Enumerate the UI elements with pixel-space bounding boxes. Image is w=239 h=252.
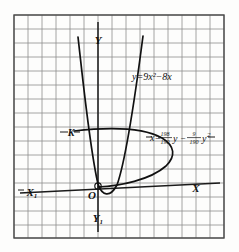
origin-label: O — [88, 189, 96, 201]
equation2-mid-variable: y — [172, 133, 178, 144]
equation-parabola-vertical: y=9x²−8x — [131, 71, 172, 82]
equation2-frac1-denominator: 190 — [161, 139, 170, 145]
figure-canvas: Y Y₁ X X₁ O K y=9x²−8x x= 198 190 y − 9 … — [0, 0, 239, 252]
equation2-frac1-numerator: 198 — [161, 131, 170, 137]
equation-parabola-horizontal: x= 198 190 y − 9 190 y 2 — [149, 131, 211, 145]
math-figure: Y Y₁ X X₁ O K y=9x²−8x x= 198 190 y − 9 … — [0, 0, 239, 252]
y1-axis-label: Y₁ — [93, 212, 104, 224]
figure-background — [0, 0, 239, 252]
x-axis-label: X — [191, 182, 200, 194]
x1-axis-label: X₁ — [25, 186, 37, 198]
equation2-frac2-numerator: 9 — [193, 131, 196, 137]
equation2-tail-exponent: 2 — [207, 131, 211, 139]
point-k-label: K — [67, 127, 76, 138]
equation2-frac2-denominator: 190 — [190, 139, 199, 145]
equation2-minus-sign: − — [180, 133, 186, 143]
